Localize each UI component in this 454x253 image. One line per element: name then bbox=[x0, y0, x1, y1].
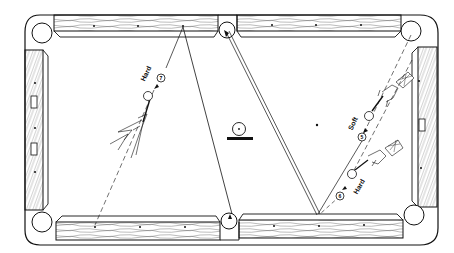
table-drawing: 7 5 6 bbox=[0, 0, 454, 253]
left-rail bbox=[25, 50, 48, 210]
bottom-rail-right bbox=[239, 214, 403, 238]
pocket-bottom-right bbox=[404, 205, 424, 225]
shot-5 bbox=[318, 35, 414, 214]
pocket-bottom-left bbox=[32, 212, 52, 232]
center-ball-marker bbox=[227, 123, 253, 141]
ball-5-number: 5 bbox=[361, 134, 364, 140]
pocket-top-left bbox=[32, 23, 52, 43]
billiards-diagram: 7 5 6 Hard Soft Hard bbox=[0, 0, 454, 253]
right-rail bbox=[412, 47, 437, 207]
ball-7-number: 7 bbox=[160, 75, 163, 81]
foot-spot bbox=[316, 124, 318, 126]
table-frame bbox=[25, 15, 438, 245]
top-rail-right bbox=[237, 15, 401, 37]
top-rail-left bbox=[54, 15, 218, 37]
pocket-top-right bbox=[401, 21, 421, 41]
bottom-rail-left bbox=[56, 216, 220, 240]
shot-7 bbox=[95, 27, 232, 225]
ball-6-number: 6 bbox=[339, 193, 342, 199]
